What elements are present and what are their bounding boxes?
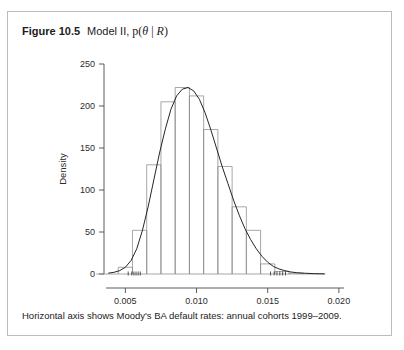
histogram-plot: 0501001502002500.0050.0100.0150.020Densi… xyxy=(8,42,393,304)
y-tick-label: 100 xyxy=(80,185,95,195)
x-tick-label: 0.015 xyxy=(256,296,279,304)
math-close-paren: ) xyxy=(164,24,168,38)
y-tick-label: 250 xyxy=(80,59,95,69)
y-axis-title: Density xyxy=(57,153,68,185)
R-symbol: R xyxy=(157,24,164,38)
y-tick-label: 200 xyxy=(80,101,95,111)
x-tick-label: 0.010 xyxy=(185,296,208,304)
x-tick-label: 0.020 xyxy=(328,296,351,304)
math-conditional-bar: | xyxy=(148,24,156,38)
density-curve xyxy=(108,88,324,274)
math-open-paren: p( xyxy=(132,24,142,38)
figure-number: Figure 10.5 xyxy=(22,25,80,37)
y-tick-label: 150 xyxy=(80,143,95,153)
y-tick-label: 50 xyxy=(85,227,95,237)
y-tick-label: 0 xyxy=(90,269,95,279)
figure-caption: Horizontal axis shows Moody's BA default… xyxy=(22,310,380,322)
plot-svg: 0501001502002500.0050.0100.0150.020Densi… xyxy=(8,42,393,304)
histogram-bars xyxy=(118,88,303,274)
figure-title-math: p(θ | R) xyxy=(129,24,168,38)
figure-title: Figure 10.5Model II, p(θ | R) xyxy=(22,24,168,39)
x-tick-label: 0.005 xyxy=(114,296,137,304)
figure-title-text: Model II, xyxy=(87,25,129,37)
figure-card: Figure 10.5Model II, p(θ | R) 0501001502… xyxy=(7,11,392,336)
